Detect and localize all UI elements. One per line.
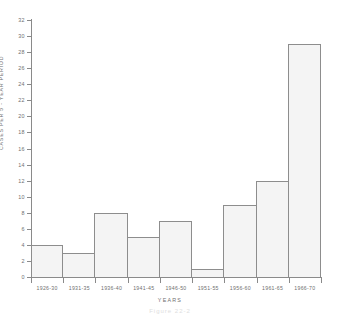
y-tick-mark — [27, 229, 31, 230]
y-tick-label: 24 — [18, 81, 25, 87]
bar-slot — [257, 20, 289, 277]
y-tick-label: 0 — [22, 274, 25, 280]
bar — [94, 213, 127, 277]
x-axis-title: YEARS — [0, 297, 340, 303]
bar — [62, 253, 95, 277]
x-tick — [257, 278, 289, 284]
x-tick-label: 1936-40 — [95, 285, 127, 291]
bar-slot — [31, 20, 63, 277]
x-tick-mark — [31, 278, 32, 283]
y-tick-label: 22 — [18, 97, 25, 103]
bar-slot — [192, 20, 224, 277]
y-tick-mark — [27, 261, 31, 262]
bar — [256, 181, 289, 277]
bar-slot — [63, 20, 95, 277]
x-tick — [160, 278, 192, 284]
y-tick-label: 20 — [18, 113, 25, 119]
y-tick-label: 26 — [18, 65, 25, 71]
x-tick — [95, 278, 127, 284]
y-tick-label: 10 — [18, 194, 25, 200]
y-tick-mark — [27, 165, 31, 166]
y-tick-mark — [27, 245, 31, 246]
x-tick-mark — [257, 278, 258, 283]
x-tick — [31, 278, 63, 284]
y-tick-mark — [27, 181, 31, 182]
y-tick-mark — [27, 149, 31, 150]
x-tick-label: 1931-35 — [63, 285, 95, 291]
y-tick-label: 14 — [18, 162, 25, 168]
bar-slot — [289, 20, 321, 277]
bar-slot — [128, 20, 160, 277]
y-tick-mark — [27, 52, 31, 53]
x-tick-label: 1941-45 — [128, 285, 160, 291]
bar — [223, 205, 256, 277]
x-tick-mark — [192, 278, 193, 283]
y-axis-title: CASES PER 5 - YEAR PERIOD — [0, 56, 4, 150]
y-tick-mark — [27, 116, 31, 117]
y-tick-mark — [27, 68, 31, 69]
y-tick-label: 28 — [18, 49, 25, 55]
bar-slot — [95, 20, 127, 277]
y-tick-mark — [27, 197, 31, 198]
y-tick-label: 18 — [18, 129, 25, 135]
x-tick-mark — [63, 278, 64, 283]
y-tick-label: 16 — [18, 146, 25, 152]
x-tick-label: 1946-50 — [160, 285, 192, 291]
x-tick-label-group: 1926-301931-351936-401941-451946-501951-… — [31, 285, 321, 291]
y-tick-label: 6 — [22, 226, 25, 232]
y-tick-mark — [27, 100, 31, 101]
x-tick — [63, 278, 95, 284]
x-tick — [192, 278, 224, 284]
y-tick-label: 12 — [18, 178, 25, 184]
figure-caption: Figure 22-2 — [0, 308, 340, 316]
bar-slot — [224, 20, 256, 277]
x-tick-label: 1951-55 — [192, 285, 224, 291]
x-tick — [289, 278, 321, 284]
y-tick-label: 2 — [22, 258, 25, 264]
x-tick — [128, 278, 160, 284]
x-tick-mark — [224, 278, 225, 283]
x-tick-label: 1956-60 — [224, 285, 256, 291]
x-tick-mark — [95, 278, 96, 283]
x-tick-mark — [289, 278, 290, 283]
x-tick-mark — [128, 278, 129, 283]
x-tick-label: 1966-70 — [289, 285, 321, 291]
plot-area: 02468101214161820222426283032 — [31, 20, 321, 277]
x-tick-mark — [321, 278, 322, 283]
bar — [288, 44, 321, 277]
y-tick-mark — [27, 84, 31, 85]
y-tick-label: 8 — [22, 210, 25, 216]
bar — [191, 269, 224, 277]
bar-series — [31, 20, 321, 277]
x-tick-label: 1926-30 — [31, 285, 63, 291]
y-tick-mark — [27, 132, 31, 133]
y-tick-mark — [27, 20, 31, 21]
x-tick-mark — [160, 278, 161, 283]
bar-slot — [160, 20, 192, 277]
bar — [31, 245, 63, 277]
bar — [127, 237, 160, 277]
y-tick-mark — [27, 36, 31, 37]
figure-bar-chart: CASES PER 5 - YEAR PERIOD 02468101214161… — [0, 0, 340, 316]
y-tick-label: 32 — [18, 17, 25, 23]
x-tick-group — [31, 278, 321, 284]
bar — [159, 221, 192, 277]
x-tick-label: 1961-65 — [257, 285, 289, 291]
y-tick-mark — [27, 213, 31, 214]
y-tick-label: 30 — [18, 33, 25, 39]
y-tick-label: 4 — [22, 242, 25, 248]
x-tick — [224, 278, 256, 284]
